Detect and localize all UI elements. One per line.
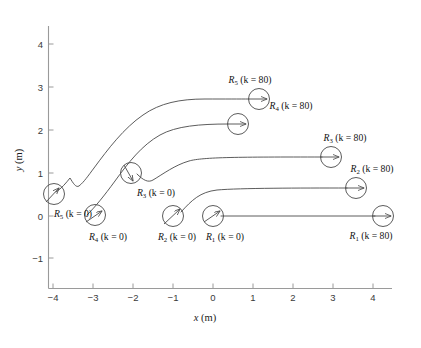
robot-marker-R1-end	[373, 206, 394, 227]
robot-marker-R1-start	[203, 206, 224, 227]
robot-marker-R2-end	[346, 178, 367, 199]
x-tick-label: −1	[168, 292, 179, 303]
label-R1-start: R1 (k = 0)	[205, 231, 244, 243]
y-tick-label: 3	[38, 82, 43, 93]
robot-marker-R3-end	[321, 147, 342, 168]
axis-lines	[49, 26, 393, 289]
x-axis-unit: (m)	[201, 312, 217, 324]
x-tick-label: 2	[290, 292, 295, 303]
x-tick-label: −4	[48, 292, 59, 303]
robot-marker-R4-end	[228, 114, 249, 135]
x-tick-label: −2	[128, 292, 139, 303]
y-axis-title: y (m)	[13, 148, 25, 172]
trajectory-R3	[137, 157, 322, 181]
robot-marker-R5-end	[249, 89, 270, 110]
svg-text:y (m): y (m)	[13, 148, 25, 172]
label-R5-start: R5 (k = 0)	[53, 208, 92, 220]
y-axis-unit: (m)	[13, 148, 25, 164]
trajectory-R5	[56, 99, 249, 192]
y-tick-label: 2	[38, 125, 43, 136]
y-axis-ticks	[49, 44, 54, 258]
robot-marker-R3-start	[121, 163, 142, 184]
label-R4-start: R4 (k = 0)	[88, 231, 127, 243]
y-axis-tick-labels: −1 0 1 2 3 4	[32, 39, 43, 264]
robot-marker-R2-start	[163, 206, 184, 227]
trajectories	[56, 99, 375, 216]
label-R2-start: R2 (k = 0)	[157, 231, 196, 243]
y-tick-label: −1	[32, 253, 43, 264]
plot-canvas: −4 −3 −2 −1 0 1 2 3 4 −1 0 1 2 3 4	[0, 0, 421, 348]
svg-text:x (m): x (m)	[193, 312, 217, 324]
label-R3-start: R3 (k = 0)	[136, 187, 175, 199]
y-tick-label: 4	[38, 39, 43, 50]
x-tick-label: 3	[330, 292, 335, 303]
x-axis-tick-labels: −4 −3 −2 −1 0 1 2 3 4	[48, 292, 376, 303]
trajectory-R4	[87, 124, 228, 215]
x-tick-label: 4	[370, 292, 375, 303]
robot-marker-R5-start	[44, 184, 65, 205]
x-axis-title: x (m)	[193, 312, 217, 324]
x-axis-ticks	[53, 284, 373, 289]
x-tick-label: 1	[250, 292, 255, 303]
label-R5-end: R5 (k = 80)	[227, 74, 271, 86]
y-tick-label: 0	[38, 211, 43, 222]
label-R2-end: R2 (k = 80)	[349, 163, 393, 175]
x-tick-label: −3	[88, 292, 99, 303]
label-R4-end: R4 (k = 80)	[268, 100, 312, 112]
x-tick-label: 0	[210, 292, 215, 303]
label-R1-end: R1 (k = 80)	[348, 230, 392, 242]
label-R3-end: R3 (k = 80)	[322, 132, 366, 144]
y-tick-label: 1	[38, 168, 43, 179]
robot-trajectory-figure: −4 −3 −2 −1 0 1 2 3 4 −1 0 1 2 3 4	[0, 0, 421, 348]
